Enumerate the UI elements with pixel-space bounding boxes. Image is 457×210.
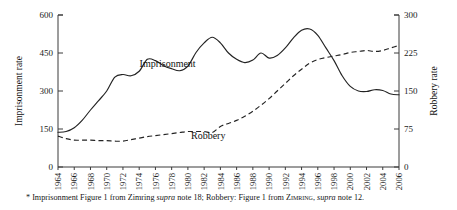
x-tick-label: 1970 <box>102 173 112 190</box>
series-line-imprisonment <box>58 29 399 133</box>
footnote-supra-2: supra <box>317 193 336 202</box>
imprisonment-robbery-chart: 0150300450600 075150225300 1964196619681… <box>0 0 457 210</box>
y-right-tick-label: 75 <box>404 124 414 134</box>
x-tick-label: 1998 <box>329 173 339 190</box>
plot-frame <box>58 15 399 167</box>
x-tick-label: 2006 <box>394 172 404 190</box>
x-tick-label: 1980 <box>183 173 193 190</box>
x-tick-label: 1976 <box>151 172 161 190</box>
footnote-supra-1: supra <box>157 193 176 202</box>
y-right-tick-label: 225 <box>404 48 418 58</box>
x-tick-label: 1964 <box>53 172 63 190</box>
svg-text:Imprisonment rate: Imprisonment rate <box>14 56 24 126</box>
svg-text:Robbery rate: Robbery rate <box>429 66 439 115</box>
data-series-group <box>58 29 399 142</box>
footnote-suffix: note 12. <box>336 193 364 202</box>
series-annotation-imprisonment: Imprisonment <box>140 58 196 69</box>
x-tick-label: 1984 <box>216 172 226 190</box>
series-line-robbery <box>58 45 399 141</box>
y-left-tick-label: 600 <box>40 10 54 20</box>
x-tick-label: 1992 <box>281 173 291 190</box>
y-axis-right-title: Robbery rate <box>429 66 439 115</box>
footnote-zimring: Zimring <box>286 193 313 202</box>
x-tick-label: 1974 <box>134 172 144 190</box>
x-tick-label: 1978 <box>167 173 177 190</box>
y-left-tick-label: 0 <box>49 162 54 172</box>
y-right-tick-label: 300 <box>404 10 418 20</box>
footnote-prefix: * Imprisonment Figure 1 from Zimring <box>26 193 157 202</box>
x-tick-label: 1994 <box>297 172 307 190</box>
x-tick-label: 2000 <box>345 173 355 190</box>
figure-footnote: * Imprisonment Figure 1 from Zimring sup… <box>26 192 446 203</box>
y-right-tick-label: 150 <box>404 86 418 96</box>
y-axis-right-ticks: 075150225300 <box>394 10 418 172</box>
y-axis-left-ticks: 0150300450600 <box>40 10 64 172</box>
series-annotation-robbery: Robbery <box>191 130 225 141</box>
x-tick-label: 1968 <box>86 173 96 190</box>
x-tick-label: 1996 <box>313 172 323 190</box>
y-left-tick-label: 450 <box>40 48 54 58</box>
x-tick-label: 2002 <box>362 173 372 190</box>
x-tick-label: 1982 <box>199 173 209 190</box>
x-axis-ticks: 1964196619681970197219741976197819801982… <box>53 167 404 190</box>
y-left-tick-label: 150 <box>40 124 54 134</box>
footnote-mid: note 18; Robbery: Figure 1 from <box>175 193 286 202</box>
y-left-tick-label: 300 <box>40 86 54 96</box>
x-tick-label: 1972 <box>118 173 128 190</box>
figure-container: 0150300450600 075150225300 1964196619681… <box>0 0 457 210</box>
x-tick-label: 1986 <box>232 172 242 190</box>
x-tick-label: 1988 <box>248 173 258 190</box>
x-tick-label: 2004 <box>378 172 388 190</box>
y-axis-left-title: Imprisonment rate <box>14 56 24 126</box>
x-tick-label: 1990 <box>264 173 274 190</box>
x-tick-label: 1966 <box>69 172 79 190</box>
y-right-tick-label: 0 <box>404 162 409 172</box>
